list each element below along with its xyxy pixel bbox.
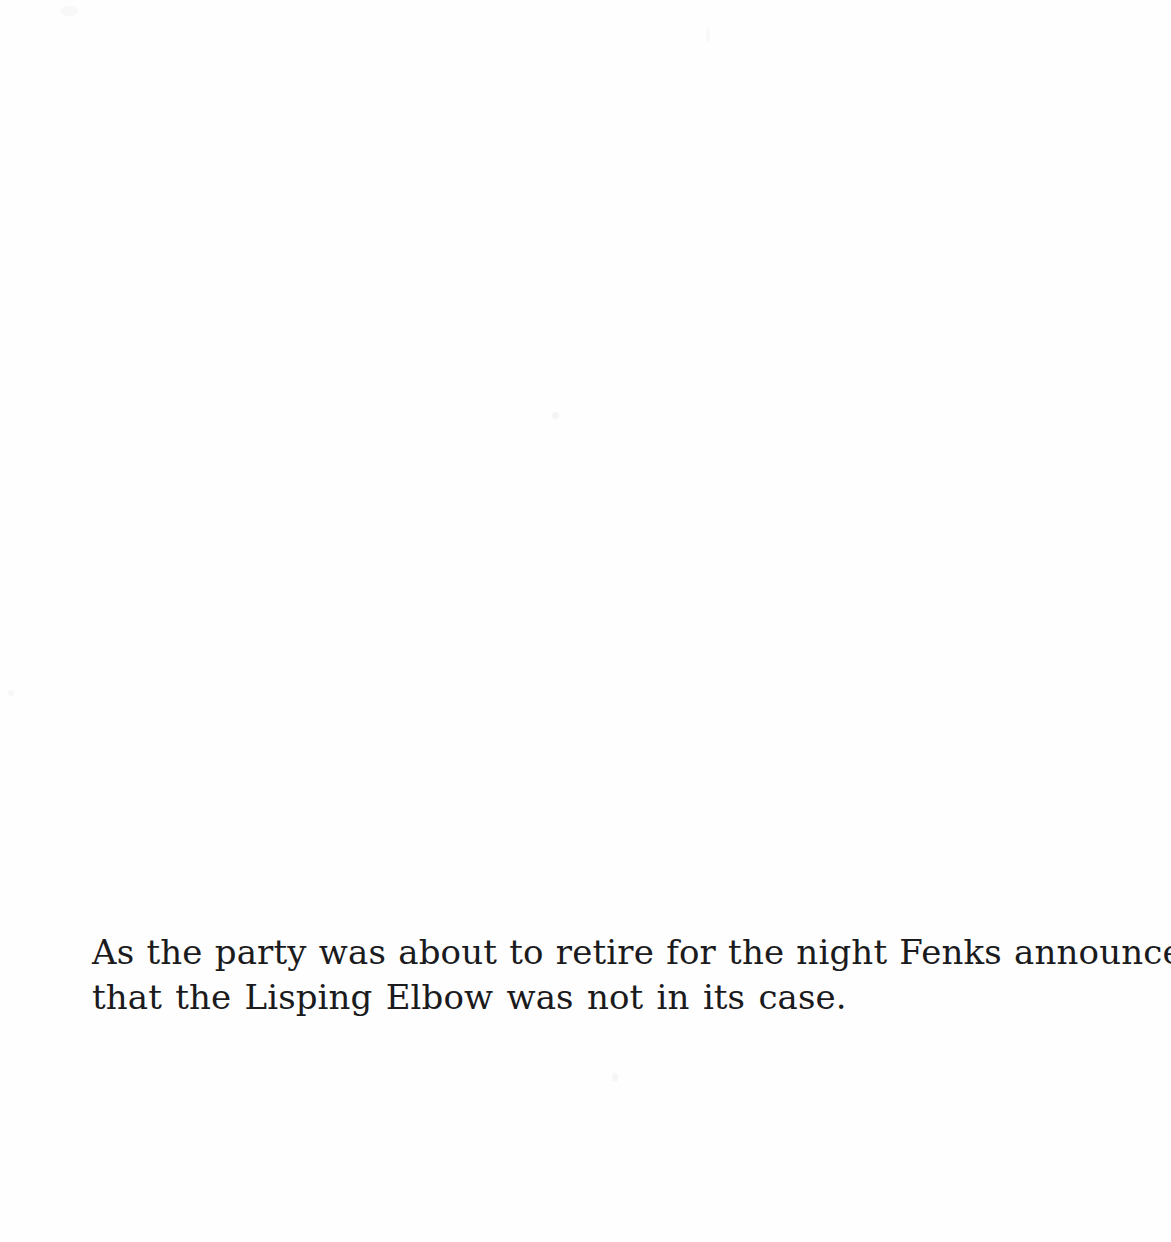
paper-speck-icon <box>706 28 710 42</box>
scanned-book-page: As the party was about to retire for the… <box>0 0 1171 1242</box>
caption-line-1: As the party was about to retire for the… <box>92 930 1138 975</box>
caption-line-2: that the Lisping Elbow was not in its ca… <box>92 975 1138 1020</box>
paper-speck-icon <box>60 6 78 16</box>
paper-speck-icon <box>612 1073 618 1082</box>
caption-text-block: As the party was about to retire for the… <box>92 930 1138 1020</box>
paper-speck-icon <box>8 690 14 696</box>
paper-speck-icon <box>552 412 559 419</box>
